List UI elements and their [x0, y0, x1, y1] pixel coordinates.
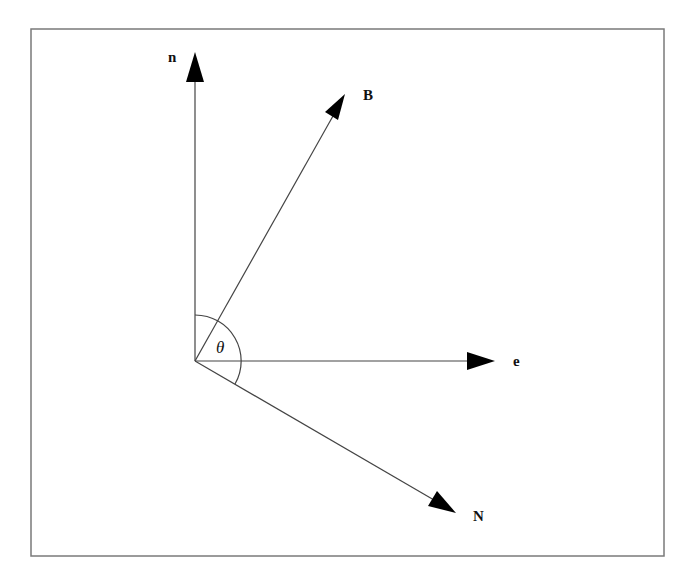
vector-B-shaft	[195, 116, 333, 361]
vector-e	[195, 352, 495, 370]
vector-e-label: e	[513, 353, 520, 369]
vector-n-label: n	[168, 49, 177, 65]
vector-B-arrowhead-icon	[325, 94, 345, 120]
vector-N	[195, 361, 456, 513]
vector-e-arrowhead-icon	[467, 352, 495, 370]
vector-N-arrowhead-icon	[428, 491, 456, 513]
diagram-frame	[31, 29, 664, 556]
vector-n-arrowhead-icon	[186, 52, 204, 82]
vector-N-label: N	[473, 508, 484, 524]
vector-diagram: n B e N θ	[0, 0, 691, 580]
vector-B-label: B	[363, 87, 373, 103]
angle-theta-label: θ	[216, 338, 224, 357]
vector-N-shaft	[195, 361, 434, 500]
